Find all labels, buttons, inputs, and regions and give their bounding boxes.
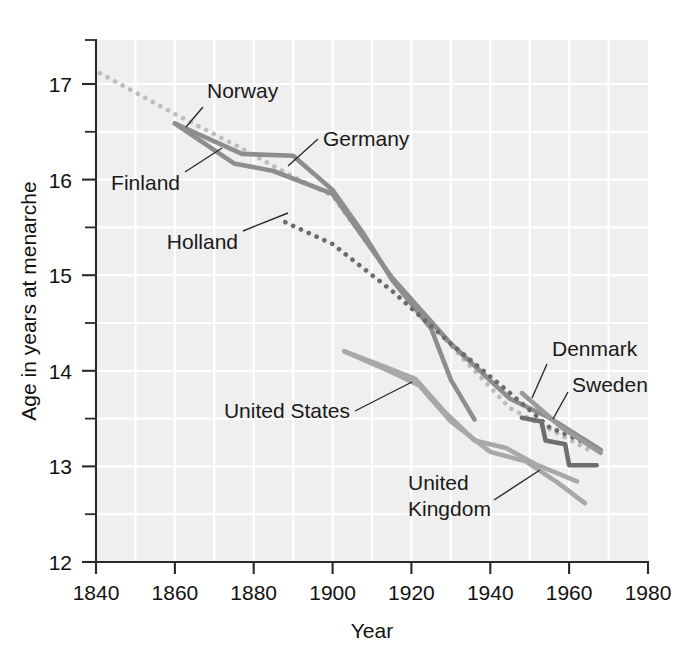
x-tick-label: 1980 [625,581,672,604]
x-tick-labels: 1840 1860 1880 1900 1920 1940 1960 1980 [73,581,672,604]
menarche-age-chart: 17 16 15 14 13 12 1840 1860 1880 1900 19… [0,0,698,672]
x-tick-label: 1860 [152,581,199,604]
series-label-sweden: Sweden [572,373,648,396]
y-axis-title: Age in years at menarche [17,181,40,420]
series-label-norway: Norway [207,79,279,102]
chart-canvas: 17 16 15 14 13 12 1840 1860 1880 1900 19… [0,0,698,672]
series-label-united-kingdom-line1: United [408,471,469,494]
x-axis-ticks [96,562,648,574]
y-tick-label: 12 [49,551,72,574]
x-axis-title: Year [351,619,393,642]
y-tick-label: 14 [49,360,73,383]
y-tick-label: 15 [49,264,72,287]
y-axis-ticks [82,40,96,562]
series-label-united-kingdom-line2: Kingdom [408,497,491,520]
y-tick-label: 17 [49,73,72,96]
series-label-germany: Germany [323,127,410,150]
x-tick-label: 1880 [230,581,277,604]
series-label-holland: Holland [167,230,238,253]
x-tick-label: 1920 [388,581,435,604]
x-tick-label: 1940 [467,581,514,604]
series-label-denmark: Denmark [552,337,638,360]
y-tick-label: 13 [49,455,72,478]
x-tick-label: 1900 [309,581,356,604]
y-tick-label: 16 [49,169,72,192]
y-tick-labels: 17 16 15 14 13 12 [49,73,73,574]
x-tick-label: 1840 [73,581,120,604]
x-tick-label: 1960 [546,581,593,604]
series-label-united-states: United States [224,399,350,422]
series-label-finland: Finland [111,171,180,194]
